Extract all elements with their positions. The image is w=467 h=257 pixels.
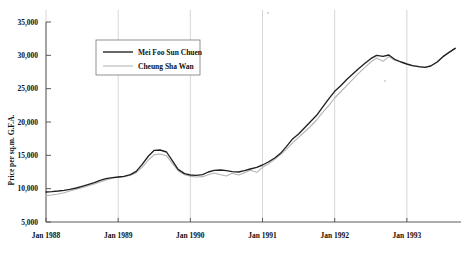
y-axis-label: Price per sq.m. G.F.A. [7, 114, 16, 185]
y-tick-label: 35,000 [17, 18, 38, 27]
stray-speck-right [384, 80, 386, 82]
x-tick-label: Jan 1990 [176, 231, 205, 240]
stray-speck-upper [267, 12, 269, 14]
x-axis-ticks [46, 218, 407, 222]
legend-label-mei-foo-sun-chuen: Mei Foo Sun Chuen [138, 48, 203, 57]
y-tick-label: 10,000 [17, 184, 38, 193]
x-axis-tick-labels: Jan 1988Jan 1989Jan 1990Jan 1991Jan 1992… [32, 231, 422, 240]
x-tick-label: Jan 1991 [248, 231, 277, 240]
y-tick-label: 20,000 [17, 118, 38, 127]
chart-container: 5,00010,00015,00020,00025,00030,00035,00… [0, 0, 467, 257]
y-tick-label: 25,000 [17, 84, 38, 93]
x-tick-label: Jan 1988 [32, 231, 61, 240]
y-tick-label: 30,000 [17, 51, 38, 60]
legend-label-cheung-sha-wan: Cheung Sha Wan [138, 62, 195, 71]
legend[interactable]: Mei Foo Sun Chuen Cheung Sha Wan [96, 40, 203, 75]
x-tick-label: Jan 1989 [104, 231, 133, 240]
y-tick-label: 5,000 [21, 218, 38, 227]
y-tick-label: 15,000 [17, 151, 38, 160]
x-tick-label: Jan 1992 [320, 231, 349, 240]
y-axis-tick-labels: 5,00010,00015,00020,00025,00030,00035,00… [17, 18, 38, 227]
line-chart-svg: 5,00010,00015,00020,00025,00030,00035,00… [0, 0, 467, 257]
x-tick-label: Jan 1993 [393, 231, 422, 240]
